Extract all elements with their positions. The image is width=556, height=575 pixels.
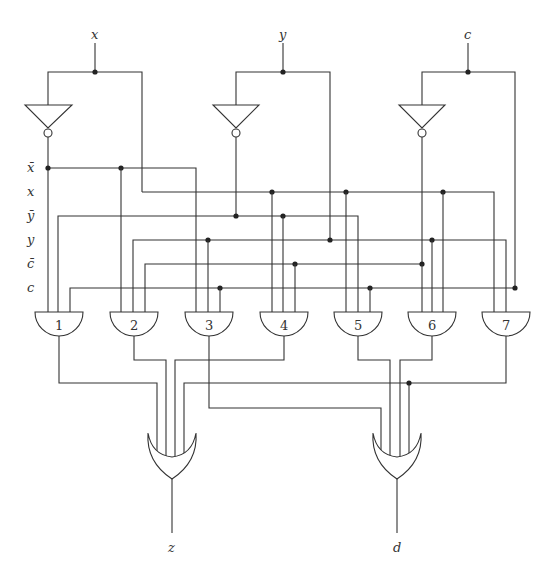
output-label-d: d [393, 540, 401, 555]
and-gate-6: 6 [408, 312, 456, 336]
svg-text:1: 1 [55, 318, 63, 333]
svg-text:5: 5 [354, 318, 362, 333]
and-gate-3: 3 [185, 312, 233, 336]
bus-label-ybar: ȳ [26, 208, 35, 223]
inverter-y [213, 105, 259, 216]
logic-circuit-diagram: x y c x̄ x ȳ y c̄ c [0, 0, 556, 575]
or-input-wires [59, 336, 506, 457]
and-gate-4: 4 [260, 312, 308, 336]
circuit-svg: x y c x̄ x ȳ y c̄ c [0, 0, 556, 575]
or-gate-d: d [373, 433, 421, 555]
and-gate-7: 7 [482, 312, 530, 336]
bus-lines [45, 165, 517, 312]
output-label-z: z [167, 540, 175, 555]
svg-text:4: 4 [280, 318, 288, 333]
input-label-x: x [91, 27, 99, 42]
svg-text:7: 7 [502, 318, 510, 333]
bus-label-x: x [27, 184, 35, 199]
and-gate-1: 1 [35, 312, 83, 336]
and-gate-2: 2 [110, 312, 158, 336]
or-gate-z: z [148, 433, 196, 555]
bus-label-cbar: c̄ [27, 256, 35, 271]
input-rails [48, 43, 515, 288]
bus-label-y: y [26, 232, 35, 247]
svg-text:2: 2 [130, 318, 138, 333]
svg-text:3: 3 [205, 318, 213, 333]
bus-label-xbar: x̄ [27, 160, 35, 175]
input-label-c: c [464, 27, 472, 42]
and-gate-5: 5 [334, 312, 382, 336]
input-label-y: y [278, 27, 287, 42]
bus-label-c: c [27, 280, 35, 295]
svg-text:6: 6 [428, 318, 436, 333]
bus-labels: x̄ x ȳ y c̄ c [26, 160, 35, 295]
